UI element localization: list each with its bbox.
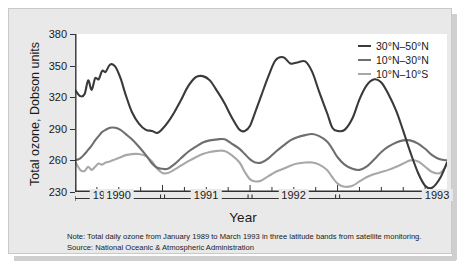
y-tick-label: 380 xyxy=(41,28,67,40)
legend-label: 10°N–10°S xyxy=(376,68,428,80)
y-tick-label: 350 xyxy=(41,60,67,72)
legend-line-swatch xyxy=(358,45,371,48)
legend-label: 30°N–50°N xyxy=(376,40,429,52)
series-line xyxy=(75,151,447,187)
legend-item: 30°N–50°N xyxy=(358,40,429,52)
legend-line-swatch xyxy=(358,73,371,76)
y-tick-mark xyxy=(70,34,75,35)
chart-card: Total ozone, Dobson units 23026029032035… xyxy=(8,8,452,254)
chart-note: Note: Total daily ozone from January 198… xyxy=(67,231,457,253)
y-tick-label: 260 xyxy=(41,154,67,166)
chart-screenshot: Total ozone, Dobson units 23026029032035… xyxy=(0,0,468,269)
legend-item: 10°N–30°N xyxy=(358,54,429,66)
x-axis: 19891990199119921993 xyxy=(75,194,447,208)
legend-item: 10°N–10°S xyxy=(358,68,429,80)
card-shadow-bottom xyxy=(14,256,456,261)
y-tick-mark xyxy=(70,192,75,193)
x-tick-label: 1992 xyxy=(278,189,308,201)
chart-legend: 30°N–50°N10°N–30°N10°N–10°S xyxy=(358,40,429,82)
x-tick-label: 1993 xyxy=(422,189,452,201)
y-axis-title: Total ozone, Dobson units xyxy=(28,34,42,194)
y-tick-label: 320 xyxy=(41,91,67,103)
series-line xyxy=(75,127,447,170)
x-tick-label: 1991 xyxy=(191,189,221,201)
y-tick-mark xyxy=(70,97,75,98)
y-tick-mark xyxy=(70,160,75,161)
y-tick-mark xyxy=(70,66,75,67)
y-tick-mark xyxy=(70,129,75,130)
y-tick-label: 290 xyxy=(41,123,67,135)
source-line: Source: National Oceanic & Atmospheric A… xyxy=(67,242,457,253)
y-tick-label: 230 xyxy=(41,186,67,198)
legend-line-swatch xyxy=(358,59,371,62)
x-axis-title: Year xyxy=(9,210,468,225)
x-tick-label: 1990 xyxy=(103,189,133,201)
legend-label: 10°N–30°N xyxy=(376,54,429,66)
note-line: Note: Total daily ozone from January 198… xyxy=(67,231,457,242)
